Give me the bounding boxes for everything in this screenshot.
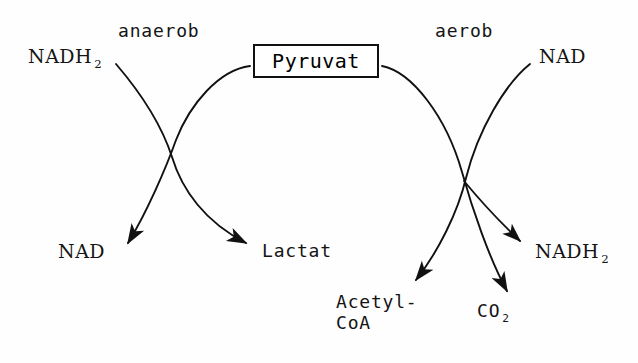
co2-text: CO <box>477 300 500 321</box>
arrow-pyruvat-to-nad-left <box>128 66 250 243</box>
co2-subscript: 2 <box>500 312 509 325</box>
nad-bottom-left-label: NAD <box>58 240 105 262</box>
pyruvat-label: Pyruvat <box>272 49 360 73</box>
nadh2-left-subscript: 2 <box>92 57 102 71</box>
nadh2-left-text: NADH <box>28 45 92 67</box>
nadh2-left-label: NADH2 <box>28 45 102 72</box>
arrow-pyruvat-to-co2 <box>382 66 507 291</box>
anaerob-label: anaerob <box>118 20 199 41</box>
nad-right-label: NAD <box>539 45 586 67</box>
diagram-canvas: Pyruvat anaerob aerob NADH2 NAD NAD Lact… <box>0 0 638 363</box>
co2-label: CO2 <box>477 300 509 325</box>
arrow-nadh2-to-lactat <box>116 64 246 243</box>
arrow-nad-to-acetyl-coa <box>416 64 530 280</box>
pyruvat-node: Pyruvat <box>253 44 379 78</box>
arrow-node-to-nadh2 <box>464 181 520 241</box>
acetyl-coa-label: Acetyl- CoA <box>336 292 417 334</box>
nadh2-right-text: NADH <box>535 240 599 262</box>
nadh2-bottom-right-label: NADH2 <box>535 240 609 267</box>
aerob-label: aerob <box>435 20 493 41</box>
nadh2-right-subscript: 2 <box>599 252 609 266</box>
acetyl-coa-line1: Acetyl- <box>336 292 417 313</box>
acetyl-coa-line2: CoA <box>336 313 417 334</box>
lactat-label: Lactat <box>262 240 332 261</box>
